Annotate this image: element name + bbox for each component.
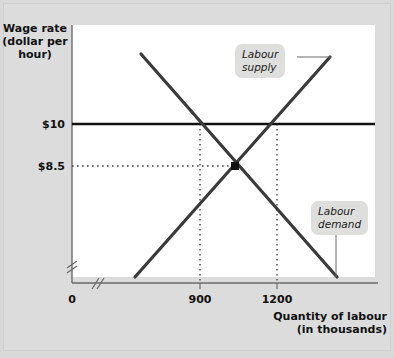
y-tick-label-10: $10	[3, 118, 65, 131]
x-tick-label-900: 900	[170, 293, 230, 306]
x-axis-title: Quantity of labour (in thousands)	[215, 310, 387, 336]
x-tick-label-1200: 1200	[247, 293, 307, 306]
y-tick-label-8-5: $8.5	[3, 160, 65, 173]
y-axis-title: Wage rate (dollar per hour)	[0, 22, 70, 61]
labour-demand-callout: Labour demand	[311, 201, 368, 235]
equilibrium-point-marker	[231, 162, 239, 170]
figure-container: Wage rate (dollar per hour) Quantity of …	[0, 0, 394, 358]
labour-supply-callout: Labour supply	[235, 44, 285, 78]
x-tick-label-0: 0	[42, 293, 102, 306]
